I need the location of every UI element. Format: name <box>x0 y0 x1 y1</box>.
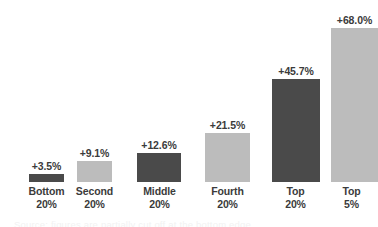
chart-plot-area: +3.5% +9.1% +12.6% +21.5% +45.7% +68.0% <box>0 0 378 182</box>
category-label-line1: Top <box>325 185 378 198</box>
category-label-second-20: Second 20% <box>65 185 124 210</box>
bar-slot-fourth-20: +21.5% <box>205 0 250 182</box>
bar-slot-top-5: +68.0% <box>331 0 378 182</box>
category-label-line2: 20% <box>130 198 189 211</box>
bar-value-label: +3.5% <box>32 161 62 172</box>
bar-slot-middle-20: +12.6% <box>137 0 181 182</box>
bar-second-20[interactable] <box>77 161 112 182</box>
category-label-line1: Middle <box>130 185 189 198</box>
category-label-line2: 5% <box>325 198 378 211</box>
bar-value-label: +12.6% <box>141 140 176 151</box>
bar-value-label: +45.7% <box>278 66 313 77</box>
bar-slot-top-20: +45.7% <box>272 0 320 182</box>
bar-slot-second-20: +9.1% <box>77 0 112 182</box>
category-label-line1: Fourth <box>198 185 257 198</box>
bar-value-label: +21.5% <box>210 120 245 131</box>
category-label-line1: Top <box>266 185 325 198</box>
category-label-fourth-20: Fourth 20% <box>198 185 257 210</box>
category-label-middle-20: Middle 20% <box>130 185 189 210</box>
bar-middle-20[interactable] <box>137 153 181 182</box>
bar-fourth-20[interactable] <box>205 133 250 182</box>
bar-value-label: +9.1% <box>80 148 110 159</box>
category-label-line1: Second <box>65 185 124 198</box>
bar-bottom-20[interactable] <box>29 174 64 182</box>
category-label-top-20: Top 20% <box>266 185 325 210</box>
bar-slot-bottom-20: +3.5% <box>29 0 64 182</box>
category-label-top-5: Top 5% <box>325 185 378 210</box>
chart-category-axis: Bottom 20% Second 20% Middle 20% Fourth … <box>0 182 378 216</box>
bar-top-5[interactable] <box>331 28 378 182</box>
clipped-caption: Source: figures are partially cut off at… <box>0 219 378 227</box>
bar-value-label: +68.0% <box>337 15 372 26</box>
category-label-line2: 20% <box>65 198 124 211</box>
bar-top-20[interactable] <box>272 79 320 182</box>
clipped-caption-text: Source: figures are partially cut off at… <box>0 219 378 227</box>
category-label-line2: 20% <box>266 198 325 211</box>
category-label-line2: 20% <box>198 198 257 211</box>
bar-chart: +3.5% +9.1% +12.6% +21.5% +45.7% +68.0% <box>0 0 378 227</box>
